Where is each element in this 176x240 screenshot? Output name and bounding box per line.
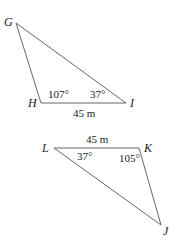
side-length-hi: 45 m	[73, 107, 96, 119]
angle-l: 37°	[77, 150, 92, 162]
triangle-jkl: L K J 45 m 37° 105°	[41, 133, 169, 238]
triangle-ghi-outline	[16, 23, 126, 103]
vertex-label-l: L	[41, 141, 49, 155]
angle-k: 105°	[119, 152, 140, 164]
angle-h: 107°	[48, 88, 69, 100]
vertex-label-g: G	[4, 15, 13, 29]
vertex-label-k: K	[143, 141, 153, 155]
triangle-ghi: G H I 45 m 107° 37°	[4, 15, 135, 119]
triangle-diagram: G H I 45 m 107° 37° L K J 45 m 37° 105°	[0, 0, 176, 240]
angle-i: 37°	[90, 88, 105, 100]
triangle-jkl-outline	[54, 148, 161, 225]
vertex-label-j: J	[163, 224, 169, 238]
vertex-label-i: I	[129, 96, 135, 110]
vertex-label-h: H	[27, 96, 38, 110]
side-length-lk: 45 m	[86, 133, 109, 145]
